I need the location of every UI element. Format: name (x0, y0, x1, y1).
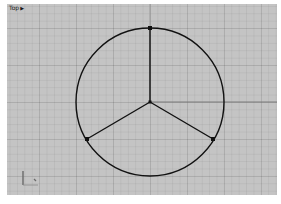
top-viewport[interactable]: Top▶ (7, 4, 277, 195)
point-center[interactable] (149, 101, 152, 104)
world-axes-icon (20, 170, 44, 188)
point-lower-right[interactable] (211, 137, 215, 141)
point-lower-left[interactable] (85, 137, 89, 141)
spoke-lower-right[interactable] (150, 102, 213, 139)
point-top[interactable] (148, 26, 152, 30)
spoke-lower-left[interactable] (87, 102, 150, 139)
scene-canvas[interactable] (7, 4, 277, 195)
